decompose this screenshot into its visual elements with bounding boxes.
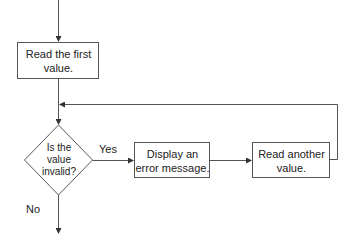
- no-label: No: [26, 203, 40, 215]
- yes-label: Yes: [99, 143, 117, 155]
- flowchart-canvas: [0, 0, 353, 247]
- display-error-label: Display an error message.: [135, 143, 210, 178]
- read-another-value-label: Read another value.: [253, 143, 330, 178]
- decision-label: Is the value invalid?: [34, 140, 84, 180]
- read-first-value-label: Read the first value.: [18, 43, 99, 79]
